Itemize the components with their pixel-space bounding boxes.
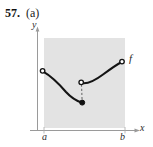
marker-open-left-start (40, 69, 45, 74)
marker-open-right-start (79, 80, 84, 85)
function-label-f: f (129, 52, 132, 64)
y-axis-label: y (32, 19, 36, 30)
marker-filled-left-end (80, 100, 85, 105)
marker-open-right-end (120, 59, 125, 64)
x-axis-label: x (140, 122, 144, 133)
tick-label-a: a (42, 131, 47, 142)
tick-label-b: b (120, 131, 125, 142)
figure-panel: 57. (a) y x a b f (0, 0, 153, 147)
graph-plot (0, 0, 153, 147)
